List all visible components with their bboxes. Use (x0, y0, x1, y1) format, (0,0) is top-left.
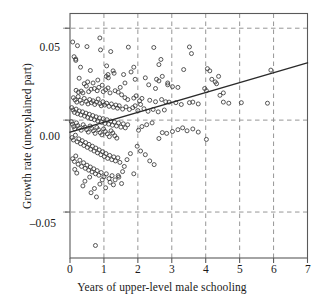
plot-frame (70, 14, 308, 259)
x-tick-label-2: 2 (128, 263, 148, 275)
scatter-plot-figure: Growth rate (unexplained part) Years of … (0, 0, 324, 303)
x-tick-label-7: 7 (298, 263, 318, 275)
x-tick-label-3: 3 (162, 263, 182, 275)
x-axis-label: Years of upper-level male schooling (0, 281, 324, 293)
y-tick-label-1: 0.00 (14, 130, 60, 142)
axis-ticks (65, 28, 308, 263)
data-points (69, 36, 273, 248)
x-tick-label-6: 6 (264, 263, 284, 275)
y-tick-label-0: 0.05 (14, 41, 60, 53)
x-tick-label-0: 0 (60, 263, 80, 275)
x-tick-label-1: 1 (94, 263, 114, 275)
x-tick-label-5: 5 (230, 263, 250, 275)
x-tick-label-4: 4 (196, 263, 216, 275)
regression-line (70, 63, 308, 132)
y-tick-label-2: –0.05 (10, 217, 56, 229)
